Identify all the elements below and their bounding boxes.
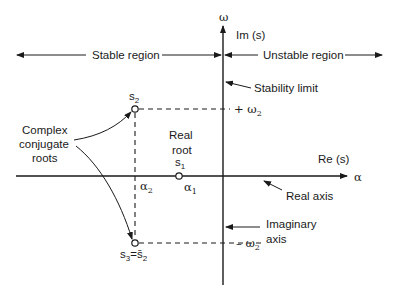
real-axis-label: Real axis: [286, 190, 334, 202]
s-plane-diagram: ω Im (s) α Re (s) Stable region Unstable…: [0, 0, 396, 298]
unstable-region-label: Unstable region: [263, 49, 344, 61]
complex-label-line3: roots: [32, 152, 58, 164]
complex-pointer-lower: [76, 146, 132, 239]
alpha1-label: α1: [184, 180, 197, 196]
root-s1-marker: [176, 173, 182, 179]
root-s3-marker: [132, 240, 138, 246]
stability-limit-label: Stability limit: [254, 82, 319, 94]
complex-label-line2: conjugate: [19, 138, 69, 150]
re-s-label: Re (s): [318, 153, 349, 165]
s1-label: s1: [175, 156, 186, 171]
s3-conjugate-label: s3=s̄2: [120, 248, 148, 263]
alpha-axis-symbol: α: [354, 170, 362, 184]
omega-axis-symbol: ω: [219, 10, 228, 24]
real-root-line1: Real: [169, 129, 193, 141]
real-root-line2: root: [172, 144, 193, 156]
minus-omega2-label: – ω2: [236, 236, 260, 252]
stable-region-label: Stable region: [92, 49, 160, 61]
stability-limit-pointer: [226, 82, 251, 88]
im-s-label: Im (s): [236, 29, 266, 41]
complex-pointer-upper: [74, 112, 131, 140]
imaginary-axis-label-line2: axis: [266, 233, 287, 245]
plus-omega2-label: + ω2: [234, 102, 262, 118]
s2-label: s2: [129, 90, 140, 105]
alpha2-label: α2: [140, 179, 153, 195]
complex-label-line1: Complex: [22, 124, 68, 136]
root-s2-marker: [132, 106, 138, 112]
imaginary-axis-label-line1: Imaginary: [266, 218, 317, 230]
real-axis-pointer: [264, 181, 282, 190]
